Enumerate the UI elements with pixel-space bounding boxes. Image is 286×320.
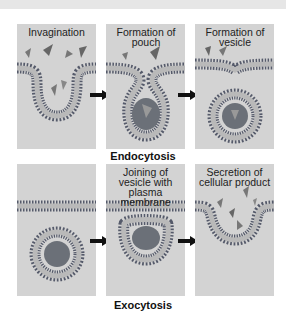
panel-formation-of-vesicle: Formation of vesicle [195,24,274,149]
panel-joining-of-vesicle: Joining of vesicle with plasma membrane [106,164,185,296]
vesicle-illustration [17,164,96,296]
panel-secretion: Secretion of cellular product [195,164,274,296]
caption-exocytosis: Exocytosis [0,299,286,311]
panel-label: Joining of vesicle with plasma membrane [106,167,185,207]
panel-formation-of-pouch: Formation of pouch [106,24,185,149]
invagination-illustration [17,24,96,149]
panel-invagination: Invagination [17,24,96,149]
panel-label: Formation of pouch [116,27,176,47]
caption-endocytosis: Endocytosis [0,150,286,162]
top-bar [0,0,286,9]
panel-label: Secretion of cellular product [195,167,274,187]
panel-vesicle [17,164,96,296]
panel-label: Invagination [17,27,96,37]
panel-label: Formation of vesicle [205,27,265,47]
